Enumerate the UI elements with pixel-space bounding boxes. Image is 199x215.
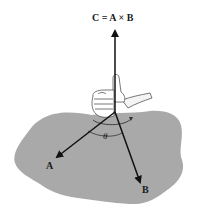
vector-a-label: A xyxy=(46,161,53,171)
theta-label: θ xyxy=(103,132,107,141)
right-hand-icon xyxy=(92,74,152,117)
equation-label: C = A × B xyxy=(92,13,133,23)
cross-product-diagram xyxy=(0,0,199,215)
vector-b-label: B xyxy=(142,185,149,195)
